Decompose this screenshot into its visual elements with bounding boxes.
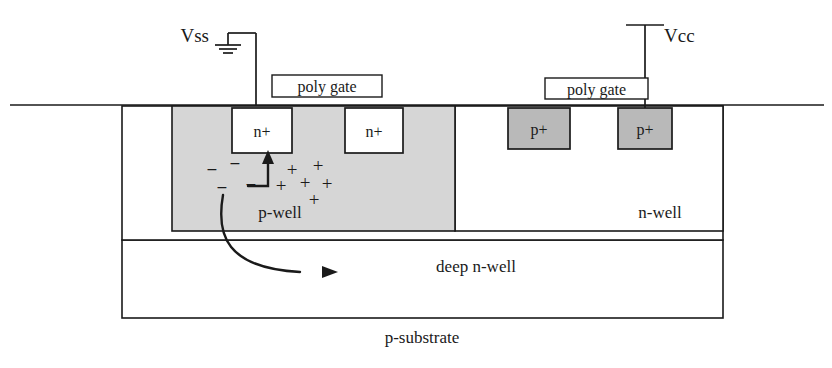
- vss-terminal: Vss: [180, 25, 256, 106]
- diffusion-n-plus-left: n+: [232, 108, 292, 153]
- label-n-plus-left: n+: [253, 123, 270, 140]
- diffusion-n-plus-right: n+: [345, 108, 403, 153]
- diffusion-p-plus-right: p+: [618, 108, 672, 149]
- poly-gate-labels: poly gatepoly gate: [272, 75, 648, 99]
- label-n-plus-right: n+: [365, 123, 382, 140]
- hole-symbol: +: [309, 189, 320, 210]
- poly-gate-left: poly gate: [272, 75, 382, 97]
- semiconductor-cross-section-diagram: n+n+p+p+ p-well n-well deep n-well p-sub…: [0, 0, 832, 368]
- region-n-well: [455, 106, 723, 231]
- label-n-well: n-well: [638, 203, 682, 222]
- electron-symbol: −: [246, 174, 257, 195]
- label-p-plus-right: p+: [636, 121, 653, 139]
- label-p-substrate: p-substrate: [385, 328, 460, 347]
- electron-symbol: −: [230, 153, 241, 174]
- hole-symbol: +: [276, 175, 287, 196]
- hole-symbol: +: [322, 173, 333, 194]
- hole-symbol: +: [287, 159, 298, 180]
- poly-gate-left-label: poly gate: [297, 78, 356, 96]
- label-vss: Vss: [180, 25, 209, 46]
- poly-gate-right-label: poly gate: [567, 81, 626, 99]
- diagram-canvas: n+n+p+p+ p-well n-well deep n-well p-sub…: [0, 0, 832, 368]
- label-deep-n-well: deep n-well: [436, 257, 516, 276]
- label-vcc: Vcc: [664, 25, 695, 46]
- region-p-substrate: [122, 240, 723, 318]
- label-p-well: p-well: [258, 203, 302, 222]
- poly-gate-right: poly gate: [545, 78, 648, 99]
- label-p-plus-left: p+: [530, 121, 547, 139]
- diffusion-p-plus-left: p+: [508, 108, 570, 149]
- ground-icon: [215, 33, 241, 53]
